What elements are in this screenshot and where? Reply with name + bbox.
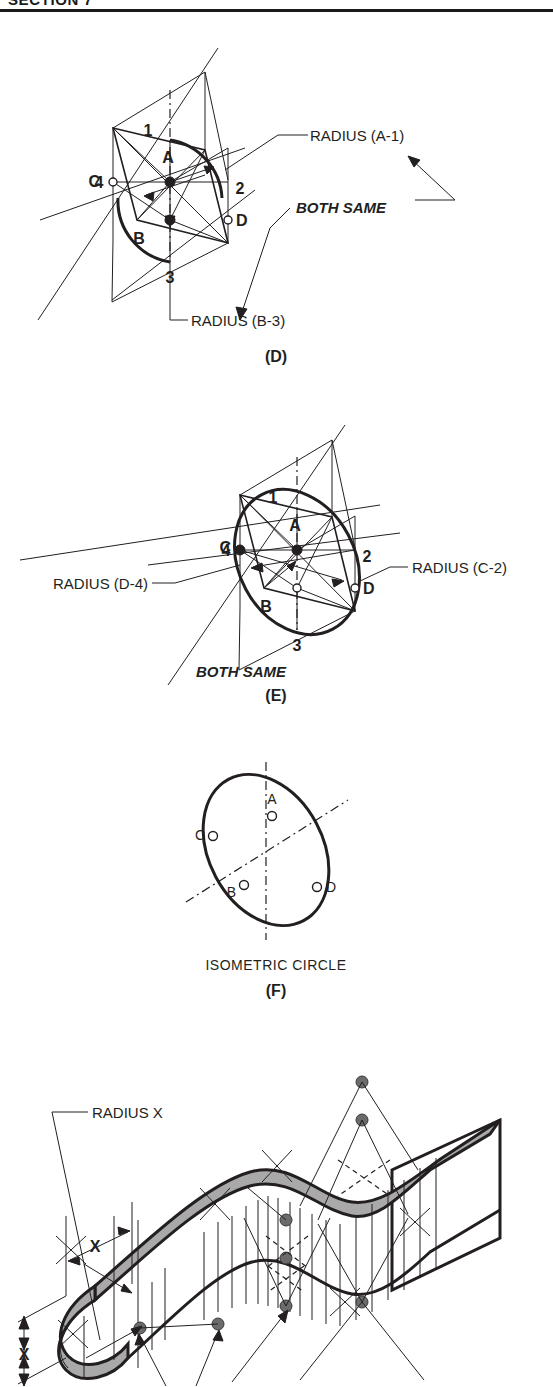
center-point-d <box>313 883 322 892</box>
label-a: A <box>162 149 174 166</box>
center-point-a <box>268 812 277 821</box>
dimension-radius-x <box>18 1112 132 1386</box>
caption-d: (D) <box>265 348 287 365</box>
annotation-radius-x: RADIUS X <box>92 1104 163 1121</box>
caption-f: (F) <box>266 982 286 999</box>
leader-radius-a1 <box>225 135 308 170</box>
leader-radius-d4 <box>152 565 240 583</box>
caption-e: (E) <box>265 687 286 704</box>
b-to-d <box>170 220 228 243</box>
label-c: C <box>219 539 231 556</box>
annotation-radius-a1: RADIUS (A-1) <box>310 127 404 144</box>
label-d: D <box>236 212 248 229</box>
dimension-x-horizontal: X <box>90 1238 101 1255</box>
label-1: 1 <box>269 489 278 506</box>
figure-e: 1 2 3 4 A B C D RADIUS (D-4) RADIUS (C-2… <box>0 385 553 705</box>
center-point-a <box>165 177 175 187</box>
label-c: C <box>88 173 100 190</box>
label-b: B <box>133 230 145 247</box>
center-left-cylinder <box>134 1318 224 1334</box>
b-to-d <box>297 588 355 611</box>
leader-radius-c2 <box>360 567 408 581</box>
center-point-a <box>292 545 302 555</box>
label-b: B <box>260 598 272 615</box>
apex-edge-left <box>240 440 332 495</box>
left-end-cap <box>59 1286 128 1379</box>
center-mid-stack <box>244 1188 330 1312</box>
label-d: D <box>363 580 375 597</box>
annotation-both-same: BOTH SAME <box>296 199 387 216</box>
both-same-leader-down <box>242 208 290 312</box>
label-b: B <box>227 884 236 900</box>
right-end-face <box>392 1120 500 1290</box>
annotation-radius-c2: RADIUS (C-2) <box>412 559 507 576</box>
apex-edge-left <box>113 72 205 128</box>
figure-f-title: ISOMETRIC CIRCLE <box>205 957 346 973</box>
bottom-apex-vert <box>112 240 113 302</box>
center-point-c <box>209 832 218 841</box>
page-canvas: SECTION 7 <box>0 0 553 1387</box>
dimension-x-vertical: X <box>19 1346 30 1363</box>
construction-line-upper <box>40 148 245 220</box>
figure-d: 1 2 3 4 A B C D RADIUS (A-1) RADIUS (B-3… <box>0 30 553 370</box>
center-point-d <box>224 216 232 224</box>
radius-construction <box>56 1076 430 1386</box>
figure-d-labels: 1 2 3 4 A B C D RADIUS (A-1) RADIUS (B-3… <box>88 122 404 365</box>
annotation-radius-b3: RADIUS (B-3) <box>191 312 285 329</box>
center-point-b <box>165 215 175 225</box>
label-1: 1 <box>144 122 153 139</box>
center-point-d <box>351 584 359 592</box>
annotation-both-same: BOTH SAME <box>196 663 287 680</box>
label-a: A <box>289 517 301 534</box>
header-title: SECTION 7 <box>8 0 93 8</box>
label-2: 2 <box>363 548 372 565</box>
label-2: 2 <box>236 180 245 197</box>
center-point-c <box>109 178 117 186</box>
page-header: SECTION 7 <box>0 0 553 9</box>
object-solid <box>59 1120 500 1379</box>
ext-vert-top <box>18 1296 66 1322</box>
label-3: 3 <box>166 269 175 286</box>
label-c: C <box>195 827 205 843</box>
label-d: D <box>326 879 336 895</box>
figure-f: A B C D ISOMETRIC CIRCLE (F) <box>0 730 553 1005</box>
header-rule <box>0 9 553 12</box>
figure-g: RADIUS X X X <box>0 1020 553 1387</box>
figure-f-geometry <box>178 753 354 948</box>
center-point-b <box>240 881 249 890</box>
b-up-right <box>297 517 332 588</box>
label-3: 3 <box>293 637 302 654</box>
figure-e-geometry <box>20 425 408 685</box>
center-point-b <box>293 584 301 592</box>
center-point-c <box>235 545 245 555</box>
bottom-apex-vert <box>239 608 240 670</box>
annotation-radius-d4: RADIUS (D-4) <box>53 575 148 592</box>
label-a: A <box>267 791 277 807</box>
